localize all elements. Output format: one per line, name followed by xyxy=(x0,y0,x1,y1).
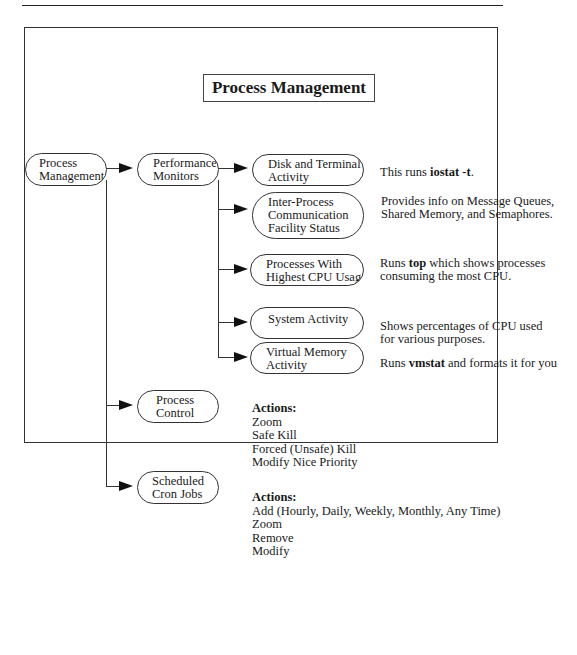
action-item: Modify Nice Priority xyxy=(252,456,358,470)
node-process-control[interactable]: Process Control xyxy=(137,390,219,423)
connector-perf-top xyxy=(218,269,235,270)
desc-ipc: Provides info on Message Queues, Shared … xyxy=(381,195,554,221)
cron-jobs-actions: Actions: Add (Hourly, Daily, Weekly, Mon… xyxy=(252,491,500,559)
connector-perf-ipc xyxy=(218,209,235,210)
top-rule xyxy=(22,5,503,6)
actions-header: Actions: xyxy=(252,491,500,505)
actions-header: Actions: xyxy=(252,402,358,416)
action-item: Modify xyxy=(252,545,500,559)
arrow-icon xyxy=(234,264,248,274)
node-label: Activity xyxy=(268,171,363,184)
desc-text: which shows processes xyxy=(426,256,545,270)
connector-root-perf xyxy=(106,168,120,169)
arrow-icon xyxy=(234,204,248,214)
node-ipc-facility-status[interactable]: Inter-Process Communication Facility Sta… xyxy=(252,192,364,239)
arrow-icon xyxy=(119,400,133,410)
node-label: Control xyxy=(156,407,218,420)
arrow-icon xyxy=(234,317,248,327)
diagram-title: Process Management xyxy=(203,74,375,102)
node-performance-monitors[interactable]: Performance Monitors xyxy=(137,153,219,186)
arrow-icon xyxy=(234,163,248,173)
node-label: Highest CPU Usage xyxy=(266,271,363,284)
action-item: Zoom xyxy=(252,416,358,430)
action-item: Forced (Unsafe) Kill xyxy=(252,443,358,457)
desc-text: Shared Memory, and Semaphores. xyxy=(381,208,554,221)
arrow-icon xyxy=(119,481,133,491)
desc-text: Runs xyxy=(380,356,409,370)
node-label: Facility Status xyxy=(268,222,363,235)
node-virtual-memory-activity[interactable]: Virtual Memory Activity xyxy=(250,342,364,374)
connector-root-trunk xyxy=(106,180,107,486)
desc-text: and formats it for you xyxy=(445,356,557,370)
action-item: Add (Hourly, Daily, Weekly, Monthly, Any… xyxy=(252,505,500,519)
node-label: Monitors xyxy=(153,170,218,183)
action-item: Remove xyxy=(252,532,500,546)
connector-root-control xyxy=(106,405,120,406)
desc-text: This runs xyxy=(380,165,430,179)
desc-text: consuming the most CPU. xyxy=(380,270,545,283)
desc-vm: Runs vmstat and formats it for you xyxy=(380,357,557,370)
node-label: Management xyxy=(39,170,106,183)
connector-root-cron xyxy=(106,486,120,487)
node-scheduled-cron-jobs[interactable]: Scheduled Cron Jobs xyxy=(137,471,219,504)
node-label: Cron Jobs xyxy=(152,488,218,501)
connector-perf-sys xyxy=(218,322,235,323)
action-item: Safe Kill xyxy=(252,429,358,443)
desc-text: . xyxy=(471,165,474,179)
arrow-icon xyxy=(234,352,248,362)
process-control-actions: Actions: Zoom Safe Kill Forced (Unsafe) … xyxy=(252,402,358,470)
command-name: vmstat xyxy=(409,356,445,370)
connector-perf-disk xyxy=(218,168,235,169)
node-process-management[interactable]: Process Management xyxy=(25,153,107,186)
node-disk-terminal-activity[interactable]: Disk and Terminal Activity xyxy=(252,154,364,186)
arrow-icon xyxy=(119,163,133,173)
action-item: Zoom xyxy=(252,518,500,532)
node-highest-cpu-usage[interactable]: Processes With Highest CPU Usage xyxy=(250,254,364,286)
command-name: iostat -t xyxy=(430,165,471,179)
node-system-activity[interactable]: System Activity xyxy=(250,307,364,339)
node-label: System Activity xyxy=(268,313,363,326)
desc-text: for various purposes. xyxy=(380,333,542,346)
node-label: Activity xyxy=(266,359,363,372)
desc-top: Runs top which shows processes consuming… xyxy=(380,257,545,283)
connector-perf-vm xyxy=(218,357,235,358)
desc-text: Runs xyxy=(380,256,409,270)
desc-disk: This runs iostat -t. xyxy=(380,166,474,179)
command-name: top xyxy=(409,256,426,270)
desc-sys: Shows percentages of CPU used for variou… xyxy=(380,320,542,346)
